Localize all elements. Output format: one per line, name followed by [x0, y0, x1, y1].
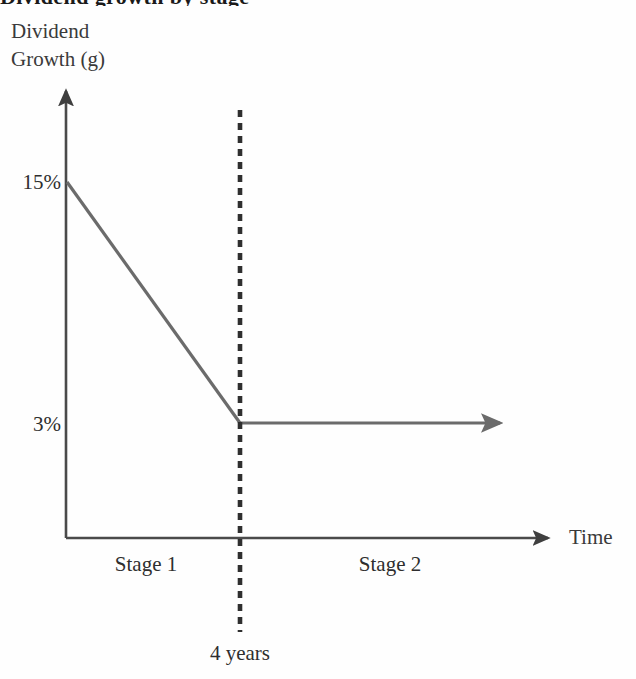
y-axis-label-line2: Growth (g): [11, 45, 105, 73]
y-axis-label: Dividend Growth (g): [11, 17, 105, 73]
y-tick-label-15-percent: 15%: [5, 170, 61, 195]
y-tick-label-3-percent: 3%: [5, 412, 61, 437]
stage-1-label: Stage 1: [86, 552, 206, 577]
x-axis-label: Time: [569, 524, 613, 551]
chart-plot-area: [0, 0, 636, 679]
stage1-growth-line: [67, 182, 240, 423]
y-axis-label-line1: Dividend: [11, 17, 105, 45]
figure-container: Dividend growth by stage Dividend Growth…: [0, 0, 636, 679]
transition-point-label: 4 years: [180, 641, 300, 666]
stage-2-label: Stage 2: [330, 552, 450, 577]
